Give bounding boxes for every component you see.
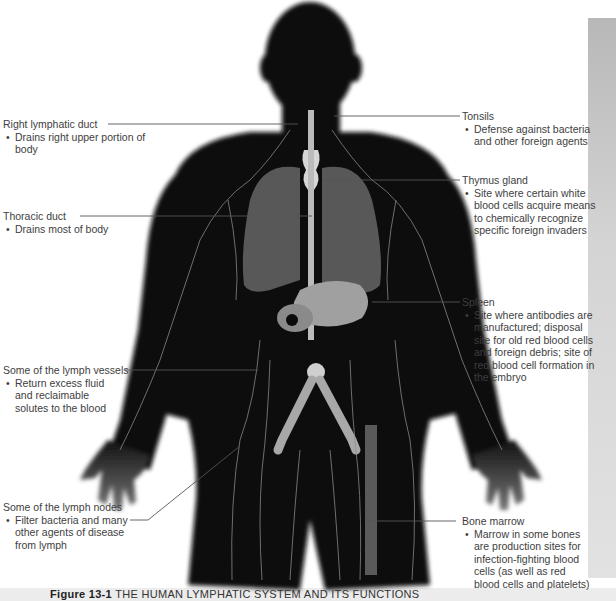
- label-title: Thoracic duct: [3, 210, 163, 223]
- figure-number: Figure 13-1: [50, 588, 112, 600]
- label-tonsils: Tonsils Defense against bacteria and oth…: [462, 110, 597, 148]
- figure-caption: Figure 13-1 THE HUMAN LYMPHATIC SYSTEM A…: [50, 588, 420, 601]
- label-title: Some of the lymph nodes: [3, 501, 131, 514]
- label-description: Site where certain white blood cells acq…: [462, 187, 597, 237]
- label-description: Defense against bacteria and other forei…: [462, 123, 597, 148]
- label-title: Bone marrow: [462, 515, 590, 528]
- label-spleen: Spleen Site where antibodies are manufac…: [462, 296, 597, 384]
- label-title: Tonsils: [462, 110, 597, 123]
- label-description: Return excess fluid and reclaimable solu…: [3, 377, 123, 415]
- label-description: Marrow in some bones are production site…: [462, 528, 590, 591]
- label-bone-marrow: Bone marrow Marrow in some bones are pro…: [462, 515, 590, 590]
- label-title: Spleen: [462, 296, 597, 309]
- label-description: Drains most of body: [3, 223, 163, 236]
- label-thymus-gland: Thymus gland Site where certain white bl…: [462, 174, 597, 237]
- figure-title: THE HUMAN LYMPHATIC SYSTEM AND ITS FUNCT…: [115, 588, 419, 600]
- label-thoracic-duct: Thoracic duct Drains most of body: [3, 210, 163, 235]
- label-title: Some of the lymph vessels: [3, 364, 123, 377]
- label-description: Filter bacteria and many other agents of…: [3, 514, 131, 552]
- label-description: Site where antibodies are manufactured; …: [462, 309, 597, 384]
- label-title: Thymus gland: [462, 174, 597, 187]
- label-right-lymphatic-duct: Right lymphatic duct Drains right upper …: [3, 118, 163, 156]
- label-description: Drains right upper portion of body: [3, 131, 163, 156]
- label-lymph-vessels: Some of the lymph vessels Return excess …: [3, 364, 123, 414]
- label-lymph-nodes: Some of the lymph nodes Filter bacteria …: [3, 501, 131, 551]
- femur: [365, 425, 377, 575]
- label-title: Right lymphatic duct: [3, 118, 163, 131]
